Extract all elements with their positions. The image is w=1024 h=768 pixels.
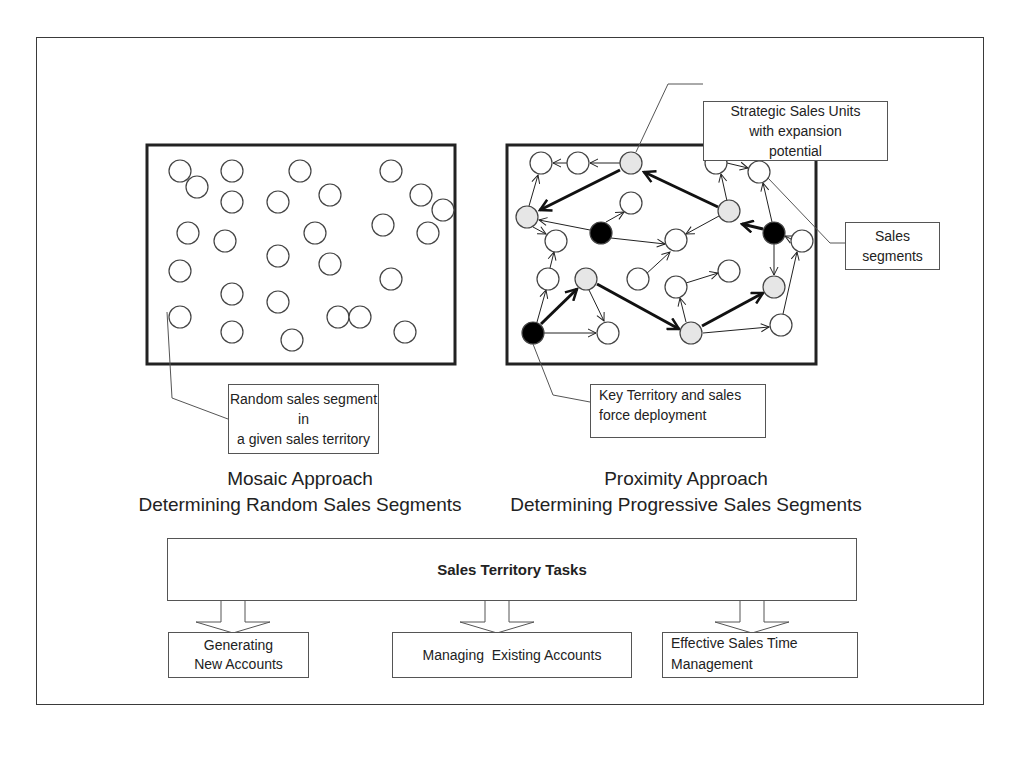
mosaic-callout: Random sales segment in a given sales te…: [228, 384, 379, 454]
task-2-line1: Managing Existing Accounts: [423, 645, 602, 665]
task-generating-new-accounts: Generating New Accounts: [168, 632, 309, 678]
sales-territory-tasks-box: Sales Territory Tasks: [167, 538, 857, 601]
task-3-line1: Effective Sales Time: [671, 633, 798, 654]
key-callout-line2: force deployment: [599, 405, 706, 425]
key-callout-line1: Key Territory and sales: [599, 385, 741, 405]
segments-callout-line2: segments: [862, 246, 923, 266]
task-3-line2: Management: [671, 654, 753, 675]
mosaic-caption-title: Mosaic Approach: [110, 466, 490, 492]
task-1-line1: Generating: [204, 636, 273, 655]
task-effective-sales-time-management: Effective Sales Time Management: [662, 632, 858, 678]
mosaic-callout-line2: a given sales territory: [237, 429, 370, 449]
key-territory-callout: Key Territory and sales force deployment: [590, 384, 766, 438]
strategic-callout-line2: with expansion: [749, 121, 842, 141]
mosaic-panel: [147, 145, 455, 419]
tasks-title: Sales Territory Tasks: [437, 560, 587, 580]
task-1-line2: New Accounts: [194, 655, 283, 674]
proximity-caption: Proximity Approach Determining Progressi…: [476, 466, 896, 518]
proximity-caption-title: Proximity Approach: [476, 466, 896, 492]
task-arrows: [196, 600, 789, 633]
proximity-caption-subtitle: Determining Progressive Sales Segments: [476, 492, 896, 518]
mosaic-caption-subtitle: Determining Random Sales Segments: [110, 492, 490, 518]
task-managing-existing-accounts: Managing Existing Accounts: [392, 632, 632, 678]
mosaic-caption: Mosaic Approach Determining Random Sales…: [110, 466, 490, 518]
strategic-callout-leader: [636, 84, 703, 152]
strategic-callout-line3: potential: [769, 141, 822, 161]
mosaic-callout-line1: Random sales segment in: [229, 389, 378, 429]
strategic-units-callout: Strategic Sales Units with expansion pot…: [703, 101, 888, 161]
sales-segments-callout: Sales segments: [845, 222, 940, 270]
segments-callout-line1: Sales: [875, 226, 910, 246]
strategic-callout-line1: Strategic Sales Units: [731, 101, 861, 121]
